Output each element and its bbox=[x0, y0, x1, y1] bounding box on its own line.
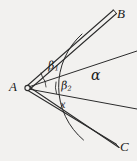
beta1-sector-tick bbox=[45, 82, 46, 88]
beta2-angle-arc bbox=[55, 82, 56, 94]
point-label-B: B bbox=[117, 7, 125, 20]
angle-label-beta1-subscript: 1 bbox=[54, 64, 59, 72]
ray-AC bbox=[28, 88, 119, 148]
vertex-point-A bbox=[25, 85, 30, 90]
angle-label-beta2-subscript: 2 bbox=[67, 84, 72, 92]
ray-AB bbox=[28, 10, 117, 89]
angle-label-x: x bbox=[60, 98, 66, 110]
ray-lower-interior bbox=[29, 89, 138, 109]
point-label-C: C bbox=[120, 140, 129, 153]
point-label-A: A bbox=[9, 80, 17, 93]
angle-diagram-figure: A B C α β1 β2 x bbox=[0, 0, 137, 161]
angle-label-beta1: β1 bbox=[48, 60, 60, 73]
angle-label-alpha: α bbox=[91, 68, 100, 82]
angle-label-beta2: β2 bbox=[61, 80, 72, 93]
